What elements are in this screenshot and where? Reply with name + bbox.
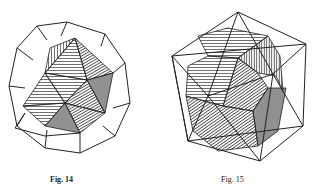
icosahedron-in-dodecahedron-drawing: [5, 18, 135, 158]
figure-15-caption: Fig. 15: [221, 175, 244, 184]
figure-14: [5, 18, 135, 158]
figure-14-caption: Fig. 14: [50, 175, 73, 184]
dodecahedron-in-icosahedron-drawing: [168, 6, 308, 166]
figure-15: [168, 6, 308, 166]
